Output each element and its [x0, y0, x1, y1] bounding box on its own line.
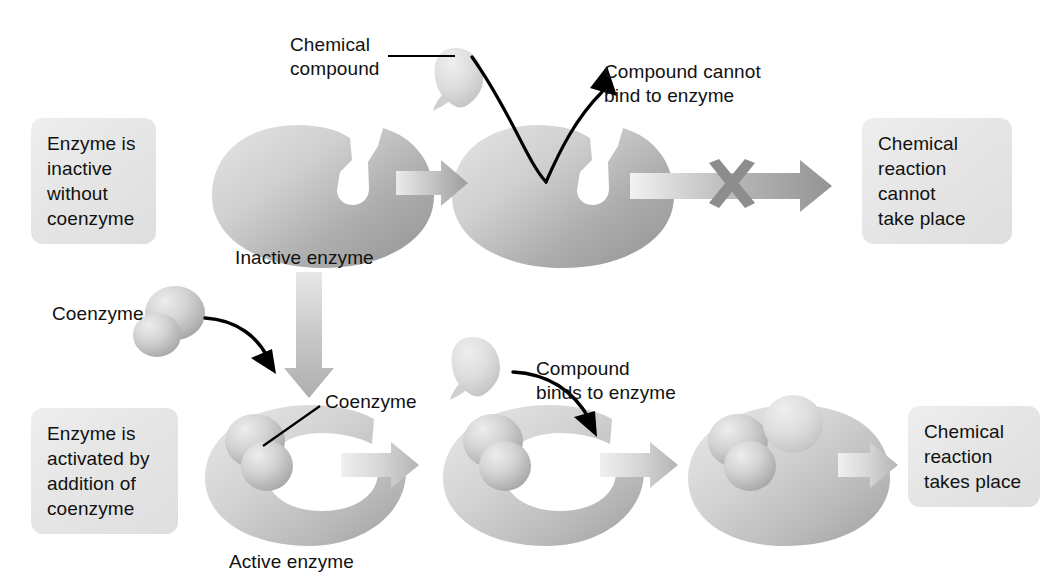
inactive-enzyme-caption: Inactive enzyme [235, 247, 374, 269]
result-box-reaction-occurs: Chemical reaction takes place [908, 406, 1040, 507]
active-enzyme-caption: Active enzyme [229, 551, 354, 573]
left-label-box-inactive: Enzyme is inactive without coenzyme [31, 118, 156, 244]
left-label-line-1: Enzyme is [47, 131, 142, 156]
left-label-line-3: without [47, 181, 142, 206]
free-coenzyme-shape [133, 286, 205, 357]
result-top-line-4: take place [878, 206, 998, 231]
compound-cannot-bind-label: Compound cannot bind to enzyme [604, 60, 761, 108]
left-label-box-activated: Enzyme is activated by addition of coenz… [31, 408, 178, 534]
chemical-compound-shape-top [433, 48, 483, 111]
left-label-line-2: inactive [47, 156, 142, 181]
chemical-compound-label-line-2: compound [290, 57, 380, 81]
binds-line-1: Compound [536, 357, 676, 381]
result-top-line-2: reaction [878, 156, 998, 181]
left-label2-line-2: activated by [47, 446, 164, 471]
compound-binds-label: Compound binds to enzyme [536, 357, 676, 405]
result-bottom-line-1: Chemical [924, 419, 1026, 444]
result-box-no-reaction: Chemical reaction cannot take place [862, 118, 1012, 244]
cannot-bind-line-1: Compound cannot [604, 60, 761, 84]
chemical-compound-shape-bottom [450, 337, 500, 400]
chemical-compound-label-line-1: Chemical [290, 33, 380, 57]
vertical-process-arrow [284, 272, 334, 398]
cannot-bind-line-2: bind to enzyme [604, 84, 761, 108]
diagram-canvas: Enzyme is inactive without coenzyme Chem… [0, 0, 1045, 581]
binds-line-2: binds to enzyme [536, 381, 676, 405]
coenzyme-label: Coenzyme [52, 303, 144, 325]
coenzyme-add-arrow [205, 318, 276, 374]
left-label2-line-1: Enzyme is [47, 421, 164, 446]
result-bottom-line-2: reaction [924, 444, 1026, 469]
left-label-line-4: coenzyme [47, 206, 142, 231]
chemical-compound-label: Chemical compound [290, 33, 380, 81]
result-bottom-line-3: takes place [924, 469, 1026, 494]
result-top-line-1: Chemical [878, 131, 998, 156]
result-top-line-3: cannot [878, 181, 998, 206]
coenzyme-callout-label: Coenzyme [325, 391, 417, 413]
left-label2-line-4: coenzyme [47, 496, 164, 521]
left-label2-line-3: addition of [47, 471, 164, 496]
